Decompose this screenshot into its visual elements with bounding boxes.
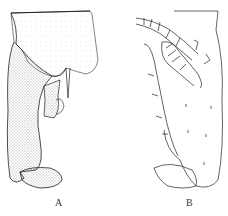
panel-b-line-drawing: B <box>114 0 228 216</box>
panel-a-illustration <box>0 0 114 216</box>
panel-a-stippled-drawing: A <box>0 0 114 216</box>
panel-a-label: A <box>55 197 62 208</box>
panel-b-label: B <box>186 197 193 208</box>
panel-b-illustration <box>114 0 228 216</box>
